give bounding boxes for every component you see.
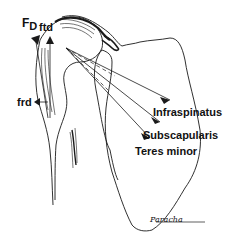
force-label-ftd: ftd xyxy=(39,22,53,33)
arrowhead-ftd xyxy=(46,36,54,44)
label-infraspinatus: Infraspinatus xyxy=(153,107,222,118)
force-line-subscapularis xyxy=(66,48,160,122)
fd-subscript: D xyxy=(29,20,37,32)
anatomy-drawing xyxy=(0,0,233,243)
label-teres-minor: Teres minor xyxy=(135,146,197,157)
label-subscapularis: Subscapularis xyxy=(143,130,218,141)
humerus-shaft-left xyxy=(36,40,53,205)
force-line-fd xyxy=(36,42,48,118)
force-line-dashed-2 xyxy=(66,48,108,90)
force-line-infraspinatus xyxy=(66,48,170,100)
scapula-outline xyxy=(62,16,200,231)
arrowhead-fd xyxy=(31,35,40,45)
force-label-frd: frd xyxy=(17,97,32,108)
artist-signature: Paracha xyxy=(150,216,183,224)
glenoid-rim xyxy=(94,50,118,180)
force-label-fd: FD xyxy=(22,17,37,32)
arrowhead-frd xyxy=(34,98,40,106)
humeral-head xyxy=(40,17,103,200)
force-line-dashed-1 xyxy=(66,48,115,76)
force-line-teres-minor xyxy=(66,48,150,138)
arrowhead-infraspinatus xyxy=(160,97,170,104)
